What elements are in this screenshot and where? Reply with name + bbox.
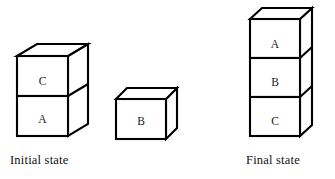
right-stack-group: A B C <box>250 8 312 136</box>
left-block-a-label: A <box>38 113 47 125</box>
blocks-world-figure: C A B <box>0 0 335 179</box>
left-stack-group: C A <box>17 44 88 136</box>
middle-block-b-group: B <box>116 88 177 139</box>
right-stack-right-face <box>300 8 312 136</box>
right-block-b-label: B <box>271 76 279 88</box>
right-block-a-label: A <box>271 38 280 50</box>
right-block-c-label: C <box>271 115 279 127</box>
block-b-top-face <box>116 88 177 99</box>
block-b-label: B <box>137 115 145 127</box>
right-stack-top-face <box>250 8 312 19</box>
left-block-c-label: C <box>39 75 47 87</box>
initial-state-caption: Initial state <box>10 153 68 168</box>
final-state-caption: Final state <box>246 153 300 168</box>
